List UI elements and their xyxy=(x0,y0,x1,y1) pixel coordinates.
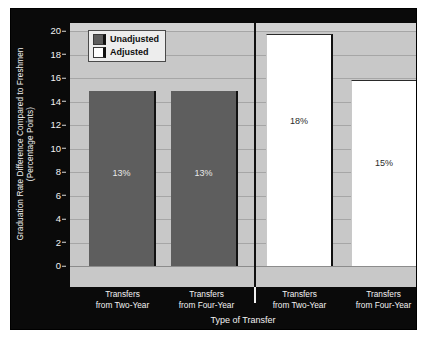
bar-unadjusted-two-year[interactable]: 13% xyxy=(89,91,156,266)
chart-container: Graduation Rate Difference Compared to F… xyxy=(10,8,417,330)
y-tick-0: 0 xyxy=(56,261,61,271)
y-tick-2: 2 xyxy=(56,238,61,248)
bar-label: 13% xyxy=(171,169,236,178)
bar-adjusted-two-year[interactable]: 18% xyxy=(266,34,333,267)
y-tick-dash xyxy=(62,172,66,173)
y-tick-6: 6 xyxy=(56,191,61,201)
legend: Unadjusted Adjusted xyxy=(88,30,166,62)
group-divider-label-band xyxy=(254,287,256,303)
x-label-line-2: from Four-Year xyxy=(331,300,431,311)
legend-item-adjusted[interactable]: Adjusted xyxy=(93,47,159,58)
x-label-adjusted-four-year: Transfers from Four-Year xyxy=(331,289,431,310)
y-tick-dash xyxy=(62,195,66,196)
group-divider xyxy=(254,23,256,287)
y-tick-12: 12 xyxy=(50,120,61,130)
y-tick-dash xyxy=(62,148,66,149)
y-tick-dash xyxy=(62,219,66,220)
y-tick-14: 14 xyxy=(50,97,61,107)
bar-label: 18% xyxy=(267,117,331,126)
y-tick-18: 18 xyxy=(50,50,61,60)
y-axis-title-line-2: (Percentage Points) xyxy=(26,48,36,241)
x-label-line-2: from Four-Year xyxy=(154,300,259,311)
y-tick-20: 20 xyxy=(50,26,61,36)
gridline-0 xyxy=(70,266,416,267)
y-axis-tick-labels: 20 18 16 14 12 10 8 6 4 2 0 xyxy=(39,9,65,294)
bar-adjusted-four-year[interactable]: 15% xyxy=(351,80,416,267)
legend-item-unadjusted[interactable]: Unadjusted xyxy=(93,34,159,45)
plot-area: 13% 13% 18% 15% Unadjusted Adjusted xyxy=(70,23,416,287)
bar-label: 15% xyxy=(352,159,416,168)
legend-label: Adjusted xyxy=(110,48,149,57)
y-tick-dash xyxy=(62,125,66,126)
x-axis-category-labels: Transfers from Two-Year Transfers from F… xyxy=(70,289,416,315)
y-tick-dash xyxy=(62,54,66,55)
legend-swatch-adjusted-icon xyxy=(93,47,106,58)
y-tick-dash xyxy=(62,101,66,102)
y-axis-title-line-1: Graduation Rate Difference Compared to F… xyxy=(16,48,25,241)
y-tick-dash xyxy=(62,242,66,243)
y-tick-dash xyxy=(62,31,66,32)
x-label-line-1: Transfers xyxy=(154,289,259,300)
legend-label: Unadjusted xyxy=(110,35,159,44)
y-tick-dash xyxy=(62,78,66,79)
y-tick-16: 16 xyxy=(50,73,61,83)
y-tick-4: 4 xyxy=(56,214,61,224)
x-axis-title: Type of Transfer xyxy=(70,315,416,325)
legend-swatch-unadjusted-icon xyxy=(93,34,106,45)
bar-label: 13% xyxy=(89,169,154,178)
x-label-line-1: Transfers xyxy=(331,289,431,300)
y-tick-dash xyxy=(62,266,66,267)
y-tick-8: 8 xyxy=(56,167,61,177)
y-axis-title: Graduation Rate Difference Compared to F… xyxy=(11,9,41,279)
x-label-unadjusted-four-year: Transfers from Four-Year xyxy=(154,289,259,310)
bar-unadjusted-four-year[interactable]: 13% xyxy=(171,91,238,266)
y-tick-10: 10 xyxy=(50,144,61,154)
